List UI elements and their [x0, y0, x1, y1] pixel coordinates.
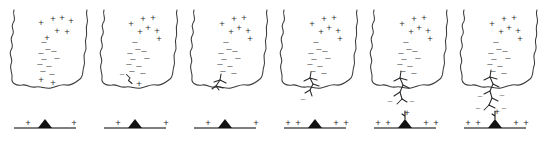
cloud-positive-charge-4: +: [416, 22, 422, 33]
cloud-negative-charge-6: –: [325, 52, 331, 63]
cloud-negative-charge-9: –: [129, 65, 135, 76]
ground-positive-charge-3: +: [423, 117, 429, 128]
leader-negative-charge-2: –: [500, 90, 505, 99]
cloud-negative-charge-10: –: [321, 67, 327, 78]
stepped-leader-segment-6: [402, 99, 407, 102]
cloud-positive-charge-3: +: [59, 12, 65, 23]
cloud-negative-charge-10: –: [140, 67, 146, 78]
ground-positive-charge-1: +: [285, 117, 291, 128]
stepped-leader-segment-2: [484, 77, 490, 80]
ground-positive-charge-3: +: [333, 117, 339, 128]
leader-negative-charge-1: –: [301, 94, 306, 103]
panel-group-6: +++++++––––––––––––––+++++: [460, 10, 537, 128]
cloud-negative-charge-6: –: [505, 52, 511, 63]
figure-canvas: +++++++––––––––––+++++++++++––––––––––+–…: [0, 0, 550, 144]
cloud-positive-charge-6: +: [318, 26, 324, 37]
cloud-positive-charge-3: +: [421, 12, 427, 23]
stepped-leader-segment-2: [394, 78, 400, 81]
streamer-positive-charge: +: [494, 106, 500, 117]
ground-positive-charge-2: +: [385, 117, 391, 128]
leader-negative-charge-1: –: [120, 69, 125, 78]
leader-negative-charge-4: –: [502, 103, 507, 112]
cloud-positive-charge-4: +: [326, 22, 332, 33]
cloud-positive-charge-4: +: [68, 15, 74, 26]
cloud-base-positive-charge-1: +: [136, 78, 142, 89]
panel-group-2: +++++++––––––––––+–++: [100, 10, 177, 128]
stepped-leader-segment-5: [394, 92, 400, 96]
ground-positive-charge-2: +: [475, 117, 481, 128]
ground-positive-charge-2: +: [163, 117, 169, 128]
cloud-negative-charge-10: –: [501, 67, 507, 78]
cloud-positive-charge-6: +: [137, 26, 143, 37]
panel-group-5: +++++++––––––––––––+++++: [370, 10, 447, 128]
cloud-positive-charge-7: +: [247, 33, 253, 44]
cloud-positive-charge-1: +: [309, 18, 315, 29]
cloud-negative-charge-6: –: [54, 52, 60, 63]
cloud-positive-charge-5: +: [54, 25, 60, 36]
leader-negative-charge-1: –: [388, 96, 393, 105]
ground-positive-charge-1: +: [205, 117, 211, 128]
ground-positive-charge-4: +: [433, 117, 439, 128]
cloud-base-positive-charge-1: +: [38, 74, 44, 85]
stepped-leader-segment-3: [220, 80, 226, 83]
panel-group-3: +++++++––––––––––++: [190, 10, 267, 128]
stepped-leader-segment-4: [313, 84, 319, 86]
ground-mountain: [38, 119, 52, 128]
cloud-positive-charge-4: +: [236, 22, 242, 33]
stepped-leader-segment-1: [127, 75, 133, 84]
cloud-positive-charge-4: +: [506, 22, 512, 33]
ground-mountain: [398, 119, 412, 128]
stepped-leader-segment-2: [304, 78, 310, 81]
panel-group-1: +++++++––––––––––++++: [10, 10, 87, 128]
cloud-positive-charge-1: +: [399, 18, 405, 29]
ground-positive-charge-1: +: [465, 117, 471, 128]
cloud-positive-charge-3: +: [241, 12, 247, 23]
cloud-positive-charge-3: +: [511, 12, 517, 23]
cloud-positive-charge-1: +: [38, 17, 44, 28]
stepped-leader-segment-6: [492, 98, 498, 101]
cloud-positive-charge-3: +: [150, 12, 156, 23]
panel-group-4: +++++++–––––––––––++++: [280, 10, 357, 128]
stepped-leader-segment-7: [397, 99, 402, 104]
ground-mountain: [308, 119, 322, 128]
ground-mountain: [218, 119, 232, 128]
cloud-positive-charge-3: +: [331, 12, 337, 23]
cloud-positive-charge-6: +: [228, 26, 234, 37]
cloud-negative-charge-6: –: [415, 52, 421, 63]
ground-positive-charge-1: +: [375, 117, 381, 128]
cloud-positive-charge-4: +: [145, 22, 151, 33]
ground-positive-charge-2: +: [295, 117, 301, 128]
ground-mountain: [488, 119, 502, 128]
cloud-negative-charge-9: –: [400, 65, 406, 76]
stepped-leader-segment-5: [305, 90, 310, 93]
cloud-positive-charge-2: +: [50, 13, 56, 24]
ground-positive-charge-3: +: [513, 117, 519, 128]
leader-negative-charge-3: –: [476, 103, 481, 112]
cloud-positive-charge-6: +: [408, 26, 414, 37]
ground-positive-charge-1: +: [115, 117, 121, 128]
ground-positive-charge-2: +: [253, 117, 259, 128]
stepped-leader-segment-4: [493, 84, 499, 87]
leader-negative-charge-2: –: [410, 96, 415, 105]
cloud-negative-charge-10: –: [411, 67, 417, 78]
stepped-leader-segment-5: [484, 91, 490, 94]
cloud-base-positive-charge-2: +: [50, 77, 56, 88]
cloud-positive-charge-1: +: [128, 18, 134, 29]
cloud-positive-charge-7: +: [427, 33, 433, 44]
cloud-negative-charge-9: –: [310, 65, 316, 76]
cloud-positive-charge-1: +: [219, 18, 225, 29]
streamer-positive-charge: +: [404, 107, 410, 118]
cloud-positive-charge-7: +: [156, 33, 162, 44]
cloud-positive-charge-7: +: [337, 33, 343, 44]
stepped-leader-segment-8: [484, 105, 489, 110]
ground-mountain: [128, 119, 142, 128]
ground-positive-charge-2: +: [71, 117, 77, 128]
cloud-negative-charge-6: –: [144, 52, 150, 63]
ground-positive-charge-4: +: [523, 117, 529, 128]
cloud-positive-charge-7: +: [517, 33, 523, 44]
ground-positive-charge-1: +: [25, 117, 31, 128]
cloud-positive-charge-6: +: [498, 26, 504, 37]
ground-positive-charge-4: +: [343, 117, 349, 128]
lightning-stepped-leader-figure: +++++++––––––––––+++++++++++––––––––––+–…: [0, 0, 550, 144]
leader-negative-charge-1: –: [478, 91, 483, 100]
